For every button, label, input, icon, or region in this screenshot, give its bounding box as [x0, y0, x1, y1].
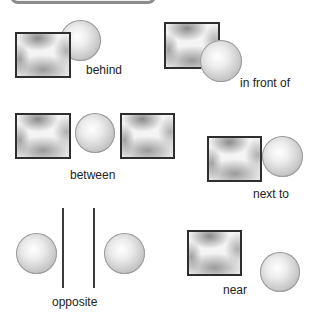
box-icon-left: [15, 113, 71, 159]
divider-line-left: [62, 208, 64, 288]
box-icon: [15, 32, 71, 78]
sphere-icon: [260, 252, 300, 292]
label-next-to: next to: [253, 187, 289, 201]
box-icon: [207, 136, 262, 182]
label-near: near: [223, 283, 247, 297]
sphere-icon: [200, 40, 242, 82]
label-between: between: [70, 168, 115, 182]
label-opposite: opposite: [52, 295, 97, 309]
box-icon-right: [120, 113, 175, 159]
label-behind: behind: [86, 63, 122, 77]
header-bar: [10, 0, 156, 4]
divider-line-right: [93, 208, 95, 288]
sphere-icon-left: [16, 233, 57, 274]
box-icon: [187, 230, 242, 276]
label-in-front-of: in front of: [240, 76, 290, 90]
sphere-icon: [75, 113, 115, 153]
sphere-icon: [262, 136, 303, 177]
sphere-icon-right: [104, 233, 145, 274]
